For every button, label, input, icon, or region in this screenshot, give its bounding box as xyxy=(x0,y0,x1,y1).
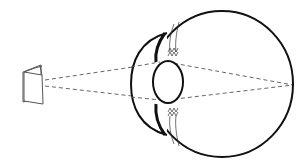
eye-focus-diagram xyxy=(0,0,308,168)
ray-lower-refracted xyxy=(167,85,293,100)
ray-upper-refracted xyxy=(167,62,293,85)
lens xyxy=(153,61,183,103)
focal-point xyxy=(292,84,294,86)
diagram-canvas xyxy=(0,0,308,168)
booklet-front-page xyxy=(24,72,43,104)
booklet-object xyxy=(23,65,43,104)
